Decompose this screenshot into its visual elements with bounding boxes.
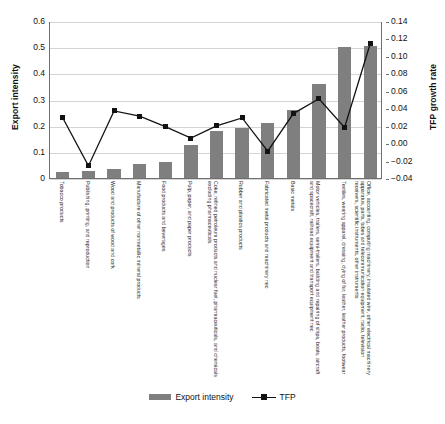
legend-label-tfp: TFP	[280, 392, 296, 402]
x-category-label: Rubber and plastics products	[238, 181, 244, 377]
y-tick-label-right: 0.14	[386, 17, 421, 26]
legend-item-tfp: TFP	[252, 392, 296, 402]
plot-area	[49, 22, 382, 179]
y-tick-mark-right	[386, 144, 389, 145]
legend-label-export-intensity: Export intensity	[175, 392, 233, 402]
y-tick-mark-right	[386, 127, 389, 128]
y-tick-label-right: −0.02	[386, 157, 421, 166]
y-tick-mark-right	[386, 22, 389, 23]
chart-container: Export intensity TFP growth rate 00.10.2…	[0, 0, 445, 424]
line-marker-icon	[252, 394, 276, 401]
y-tick-label-left: 0.5	[19, 43, 45, 52]
y-tick-mark-right	[386, 179, 389, 180]
x-category-label: Tobacco products	[59, 181, 65, 377]
y-tick-label-right: 0.02	[386, 122, 421, 131]
x-axis-category-labels: Tobacco productsPublishing, printing, an…	[49, 181, 382, 381]
x-category-label: Textiles, wearing apparel, dressing, dyi…	[341, 181, 347, 377]
y-tick-label-left: 0	[19, 174, 45, 183]
tfp-marker	[368, 41, 373, 46]
y-axis-right-ticks: −0.04−0.020.000.020.040.060.080.100.120.…	[386, 22, 418, 179]
y-tick-mark-right	[386, 92, 389, 93]
tfp-line-path	[63, 44, 370, 166]
y-axis-left-ticks: 00.10.20.30.40.50.6	[17, 22, 45, 179]
tfp-marker	[265, 149, 270, 154]
tfp-marker	[240, 115, 245, 120]
y-tick-mark-right	[386, 109, 389, 110]
y-tick-label-right: 0.12	[386, 34, 421, 43]
x-category-label: Office, accounting, computing machinery,…	[354, 181, 373, 381]
y-tick-label-right: 0.00	[386, 139, 421, 148]
tfp-marker	[86, 163, 91, 168]
tfp-marker	[214, 123, 219, 128]
tfp-marker	[60, 115, 65, 120]
y-tick-label-left: 0.6	[19, 17, 45, 26]
bar-swatch-icon	[149, 394, 171, 400]
y-tick-mark-right	[386, 74, 389, 75]
x-category-label: Pulp, paper, and paper products	[187, 181, 193, 377]
x-category-label: Manufacture of other nonmetallic mineral…	[136, 181, 142, 377]
x-category-label: Motor vehicles, trailers, semi-trailers,…	[309, 181, 321, 381]
x-category-label: Food products and beverages	[161, 181, 167, 377]
y-tick-label-left: 0.2	[19, 122, 45, 131]
x-category-label: Publishing, printing, and reproduction	[84, 181, 90, 377]
y-tick-label-left: 0.1	[19, 148, 45, 157]
y-tick-label-left: 0.4	[19, 69, 45, 78]
y-tick-mark-right	[386, 162, 389, 163]
x-category-label: Fabricated metal products and machinery …	[264, 181, 270, 377]
chart-legend: Export intensity TFP	[0, 392, 445, 402]
y-tick-label-right: 0.10	[386, 52, 421, 61]
y-axis-right-title: TFP growth rate	[428, 60, 438, 134]
gridline	[50, 179, 381, 180]
tfp-marker	[163, 124, 168, 129]
legend-item-export-intensity: Export intensity	[149, 392, 233, 402]
line-series-tfp	[50, 22, 383, 179]
y-tick-label-right: 0.04	[386, 104, 421, 113]
tfp-marker	[137, 114, 142, 119]
tfp-marker	[112, 108, 117, 113]
tfp-marker	[188, 136, 193, 141]
y-tick-label-right: 0.08	[386, 69, 421, 78]
y-tick-mark-right	[386, 39, 389, 40]
y-tick-label-right: 0.06	[386, 87, 421, 96]
x-category-label: Basic metals	[289, 181, 295, 377]
tfp-marker	[342, 125, 347, 130]
tfp-marker	[316, 96, 321, 101]
x-category-label: Wood and products of wood and cork	[110, 181, 116, 377]
x-category-label: Coke, refined petroleum products and nuc…	[206, 181, 218, 381]
y-tick-label-right: −0.04	[386, 174, 421, 183]
y-tick-mark-right	[386, 57, 389, 58]
tfp-marker	[291, 111, 296, 116]
y-tick-label-left: 0.3	[19, 96, 45, 105]
